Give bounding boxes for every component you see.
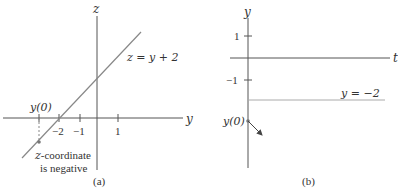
panel-b: y t 1 −1 y = −2 y(0) (b) xyxy=(222,5,398,188)
annotation-line1: z-coordinate xyxy=(34,149,91,162)
line-label: z = y + 2 xyxy=(126,51,178,64)
t-axis-label: t xyxy=(393,51,398,65)
tick-label-b-1: 1 xyxy=(234,30,240,42)
point-y0-on-line xyxy=(37,140,41,144)
tick-label-1: 1 xyxy=(115,125,121,137)
tick-label-neg2: −2 xyxy=(52,125,64,137)
tick-label-neg1: −1 xyxy=(73,125,85,137)
z-axis-label: z xyxy=(92,2,100,16)
y-axis-label-a: y xyxy=(185,112,193,126)
figure: z y −2 −1 1 y(0) z = y + 2 z-coordinate … xyxy=(0,0,398,192)
caption-b: (b) xyxy=(302,175,315,188)
y0-label-a: y(0) xyxy=(29,101,52,114)
tick-label-b-neg1: −1 xyxy=(226,74,238,86)
y0-label-b: y(0) xyxy=(222,115,245,128)
line-z-eq-y-plus-2 xyxy=(22,32,141,158)
caption-a: (a) xyxy=(93,175,106,188)
slope-arrow xyxy=(248,121,262,135)
annotation-line2: is negative xyxy=(40,162,87,174)
panel-a: z y −2 −1 1 y(0) z = y + 2 z-coordinate … xyxy=(3,2,193,188)
y-axis-label-b: y xyxy=(243,5,251,19)
equilibrium-label: y = −2 xyxy=(340,87,380,100)
